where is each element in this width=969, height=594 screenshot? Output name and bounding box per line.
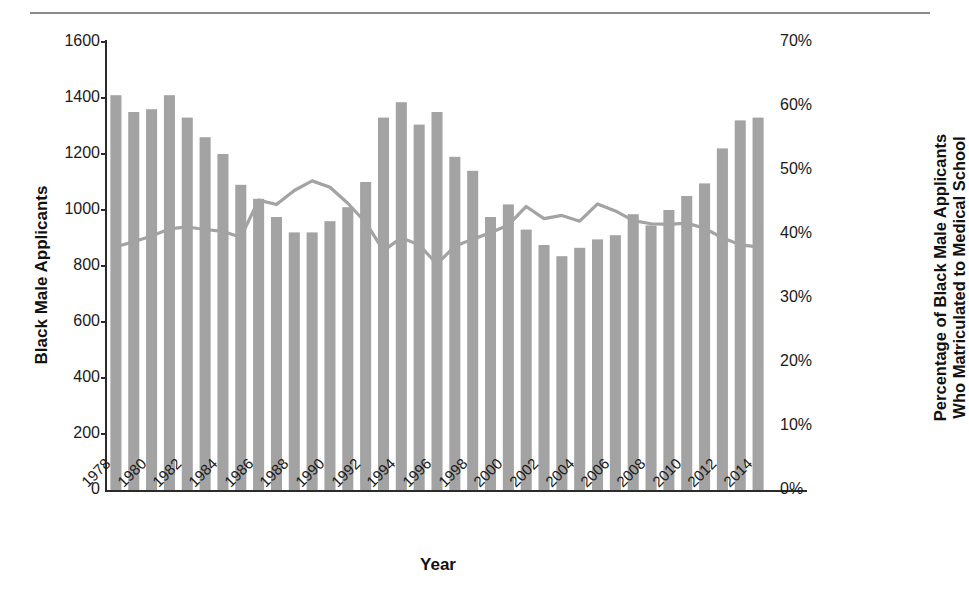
y-axis-title-left: Black Male Applicants [32,140,52,410]
y-axis-title-right-line1: Percentage of Black Male Applicants [931,87,950,467]
y-axis-title-right-line2: Who Matriculated to Medical School [950,87,969,467]
x-axis-title: Year [0,555,876,575]
y-axis-title-right: Percentage of Black Male Applicants Who … [931,87,969,467]
